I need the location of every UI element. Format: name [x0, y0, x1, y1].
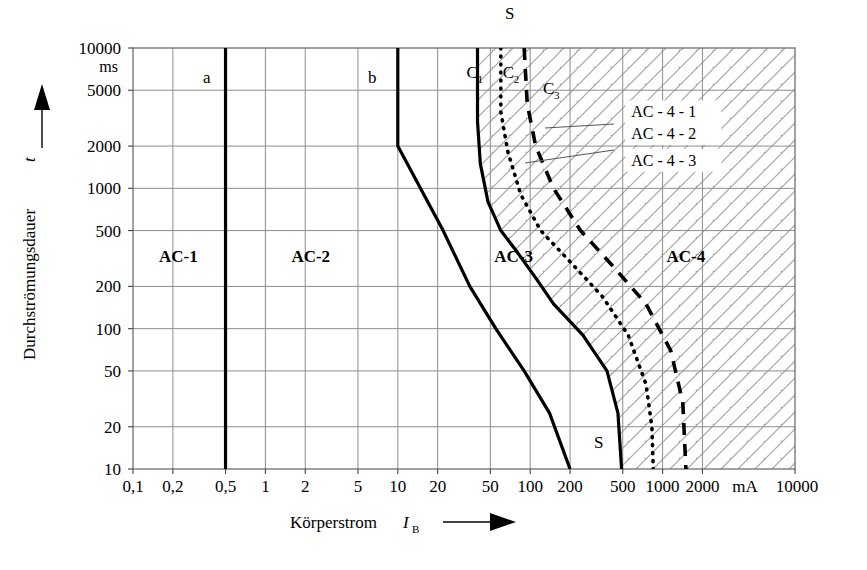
x-tick-label-500: 500 [610, 477, 636, 496]
x-tick-label-10000: 10000 [776, 477, 819, 496]
ac-4-3-label: AC - 4 - 3 [631, 152, 696, 169]
curve-b-label: b [368, 68, 377, 87]
body-current-time-current-zones-chart: 0,10,20,51251020501002005001000200010000… [0, 0, 867, 570]
y-tick-label-1000: 1000 [87, 179, 121, 198]
zone-label-ac-2: AC-2 [291, 247, 330, 266]
x-tick-label-50: 50 [482, 477, 499, 496]
y-tick-label-50: 50 [104, 362, 121, 381]
x-tick-label-5: 5 [354, 477, 363, 496]
x-tick-label-1: 1 [261, 477, 270, 496]
y-tick-label-200: 200 [96, 277, 122, 296]
y-axis-tick-labels: 10205010020050010002000500010000 [79, 39, 122, 479]
curve-c3-label-subscript: 3 [554, 89, 560, 101]
x-tick-label-1000: 1000 [646, 477, 680, 496]
curve-c2-label-subscript: 2 [514, 73, 520, 85]
curve-c3-label-base: C [543, 79, 554, 98]
y-tick-label-10: 10 [104, 460, 121, 479]
ac-4-1-label: AC - 4 - 1 [631, 103, 696, 120]
x-axis-unit-label: mA [732, 477, 758, 496]
y-axis-arrow-head [34, 84, 50, 110]
x-tick-label-20: 20 [429, 477, 446, 496]
curve-c1-label-subscript: 1 [477, 73, 483, 85]
x-tick-label-0,1: 0,1 [122, 477, 143, 496]
curve-c2-label-base: C [503, 63, 514, 82]
y-tick-label-20: 20 [104, 418, 121, 437]
x-tick-label-2000: 2000 [685, 477, 719, 496]
y-axis-title-group: Durchströmungsdauer t [20, 84, 50, 360]
y-tick-label-2000: 2000 [87, 137, 121, 156]
x-axis-arrow-head [490, 513, 516, 531]
x-axis-tick-labels: 0,10,20,51251020501002005001000200010000 [122, 477, 818, 496]
y-tick-label-500: 500 [96, 222, 122, 241]
zone-label-ac-3: AC-3 [494, 247, 533, 266]
y-axis-title: Durchströmungsdauer [20, 209, 39, 360]
x-axis-title: Körperstrom [290, 513, 377, 532]
x-tick-label-2: 2 [301, 477, 310, 496]
zone-label-ac-4: AC-4 [667, 247, 706, 266]
y-tick-label-100: 100 [96, 320, 122, 339]
y-axis-unit-label: ms [99, 58, 118, 75]
curve-s-bottom-label: S [594, 433, 603, 452]
x-axis-title-subscript: B [412, 523, 419, 535]
x-axis-title-group: Körperstrom I B [290, 513, 516, 535]
x-tick-label-0,5: 0,5 [215, 477, 236, 496]
x-axis-title-symbol: I [402, 513, 410, 532]
x-tick-label-0,2: 0,2 [162, 477, 183, 496]
x-tick-label-100: 100 [517, 477, 543, 496]
x-tick-label-200: 200 [557, 477, 583, 496]
y-axis-title-symbol: t [20, 156, 39, 162]
curve-c1-label-base: C [466, 63, 477, 82]
chart-canvas: 0,10,20,51251020501002005001000200010000… [0, 0, 867, 570]
y-tick-label-10000: 10000 [79, 39, 122, 58]
curve-s-top-label: S [505, 4, 514, 23]
x-tick-label-10: 10 [389, 477, 406, 496]
zone-label-ac-1: AC-1 [159, 247, 198, 266]
curve-a-label: a [203, 68, 211, 87]
y-tick-label-5000: 5000 [87, 81, 121, 100]
ac-4-2-label: AC - 4 - 2 [631, 125, 696, 142]
